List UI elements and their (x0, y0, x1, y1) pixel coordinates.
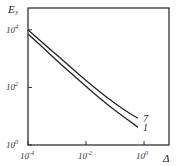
y-tick-label: 100 (6, 139, 18, 150)
x-tick-label: 100 (136, 150, 148, 161)
x-tick-exp: -2 (87, 150, 92, 156)
x-tick-label: 10-4 (20, 150, 34, 161)
x-axis-title: Δ (162, 152, 169, 164)
x-tick-label: 10-2 (78, 150, 92, 161)
series-1-line (28, 34, 138, 127)
y-tick-exp: 0 (15, 139, 18, 145)
y-tick-exp: 4 (15, 24, 18, 30)
series-1-label: 1 (143, 122, 148, 133)
series-7-line (28, 30, 138, 118)
y-axis-title: E3 (7, 3, 18, 16)
x-tick-exp: 0 (145, 150, 148, 156)
x-tick-exp: -4 (29, 150, 34, 156)
y-tick-label: 102 (6, 81, 18, 92)
chart: 10-410-2100 100102104 71 E3 Δ (0, 0, 178, 166)
y-tick-exp: 2 (15, 81, 18, 87)
y-tick-label: 104 (6, 24, 18, 35)
